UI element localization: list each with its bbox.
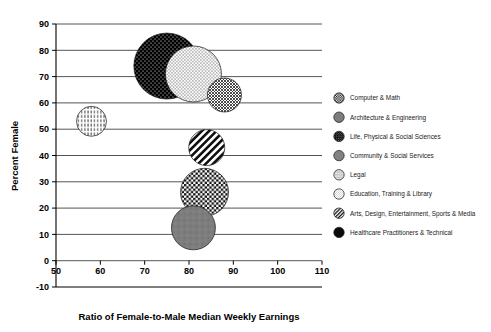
y-axis-title: Percent Female <box>9 121 20 191</box>
x-tick-label: 80 <box>184 266 194 276</box>
y-tick-label: 80 <box>39 46 49 56</box>
x-tick-label: 100 <box>270 266 285 276</box>
y-tick-label: 60 <box>39 98 49 108</box>
y-tick-label: 70 <box>39 72 49 82</box>
y-tick-label: 20 <box>39 203 49 213</box>
bubble <box>171 206 215 250</box>
legend-marker <box>334 227 344 237</box>
legend-marker <box>334 170 344 180</box>
y-axis-ticks: -100102030405060708090 <box>36 19 56 292</box>
y-tick-label: 40 <box>39 151 49 161</box>
y-tick-label: -10 <box>36 282 49 292</box>
y-tick-label: 0 <box>44 256 49 266</box>
y-tick-label: 50 <box>39 124 49 134</box>
bubble <box>207 78 241 112</box>
x-tick-label: 70 <box>140 266 150 276</box>
bubble-chart-figure: -100102030405060708090 5060708090100110 … <box>0 0 491 332</box>
chart-canvas: -100102030405060708090 5060708090100110 … <box>0 0 491 332</box>
legend-marker <box>334 131 344 141</box>
legend-label: Community & Social Services <box>350 152 434 160</box>
x-tick-label: 90 <box>228 266 238 276</box>
legend-label: Life, Physical & Social Sciences <box>350 133 441 141</box>
chart-legend: Computer & MathArchitecture & Engineerin… <box>334 93 476 238</box>
y-tick-label: 30 <box>39 177 49 187</box>
x-axis-title: Ratio of Female-to-Male Median Weekly Ea… <box>78 311 299 322</box>
x-tick-label: 110 <box>315 266 330 276</box>
legend-label: Education, Training & Library <box>350 190 433 198</box>
bubble <box>76 106 106 136</box>
y-tick-label: 10 <box>39 230 49 240</box>
legend-label: Arts, Design, Entertainment, Sports & Me… <box>350 210 476 218</box>
legend-label: Healthcare Practitioners & Technical <box>350 229 453 236</box>
x-tick-label: 50 <box>51 266 61 276</box>
legend-marker <box>334 208 344 218</box>
legend-marker <box>334 150 344 160</box>
legend-marker <box>334 93 344 103</box>
legend-marker <box>334 189 344 199</box>
y-tick-label: 90 <box>39 19 49 29</box>
legend-label: Computer & Math <box>350 94 401 102</box>
legend-marker <box>334 112 344 122</box>
x-tick-label: 60 <box>95 266 105 276</box>
legend-label: Legal <box>350 171 366 179</box>
legend-label: Architecture & Engineering <box>350 114 426 122</box>
bubble <box>189 130 225 166</box>
